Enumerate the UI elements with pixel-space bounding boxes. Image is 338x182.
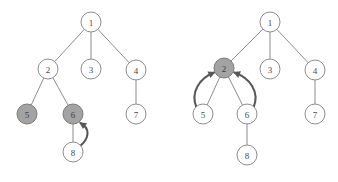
tree-node-8[interactable]: 8 (237, 145, 257, 165)
tree-node-8[interactable]: 8 (63, 142, 83, 162)
node-label: 7 (313, 110, 318, 120)
node-label: 2 (222, 64, 227, 74)
node-label: 6 (71, 110, 76, 120)
node-label: 1 (89, 18, 94, 28)
tree-edge-1-2 (55, 29, 85, 61)
tree-node-5[interactable]: 5 (17, 104, 37, 124)
node-label: 8 (71, 148, 76, 158)
node-label: 5 (25, 110, 30, 120)
tree-node-6[interactable]: 6 (237, 104, 257, 124)
tree-node-4[interactable]: 4 (305, 60, 325, 80)
tree-diagram-figure: 1234567812345678 (0, 0, 338, 182)
tree-node-4[interactable]: 4 (126, 60, 146, 80)
tree-node-7[interactable]: 7 (126, 104, 146, 124)
tree-edge-2-5 (31, 78, 44, 105)
tree-node-1[interactable]: 1 (81, 12, 101, 32)
node-label: 1 (268, 18, 273, 28)
node-label: 4 (313, 66, 318, 76)
nodes-layer: 1234567812345678 (17, 12, 325, 165)
tree-edge-1-4 (98, 29, 129, 62)
move-arrow-6-to-2 (235, 73, 256, 108)
node-label: 2 (46, 65, 51, 75)
tree-node-7[interactable]: 7 (305, 104, 325, 124)
tree-node-3[interactable]: 3 (260, 59, 280, 79)
tree-node-2[interactable]: 2 (214, 58, 234, 78)
node-label: 4 (134, 66, 139, 76)
node-label: 6 (245, 110, 250, 120)
node-label: 3 (268, 65, 273, 75)
tree-node-2[interactable]: 2 (38, 59, 58, 79)
tree-edge-2-5 (207, 77, 220, 105)
node-label: 7 (134, 110, 139, 120)
edges-layer (31, 29, 315, 145)
tree-node-3[interactable]: 3 (81, 59, 101, 79)
move-arrow-5-to-2 (194, 73, 214, 108)
tree-edge-1-2 (231, 29, 263, 61)
tree-edge-1-4 (277, 29, 308, 62)
move-arrows-layer (79, 71, 255, 146)
node-label: 3 (89, 65, 94, 75)
tree-edge-2-6 (228, 77, 242, 105)
tree-edge-2-6 (53, 78, 68, 106)
tree-node-1[interactable]: 1 (260, 12, 280, 32)
tree-node-6[interactable]: 6 (63, 104, 83, 124)
node-label: 8 (245, 151, 250, 161)
node-label: 5 (201, 110, 206, 120)
tree-diagram-canvas: 1234567812345678 (0, 0, 338, 182)
tree-node-5[interactable]: 5 (193, 104, 213, 124)
